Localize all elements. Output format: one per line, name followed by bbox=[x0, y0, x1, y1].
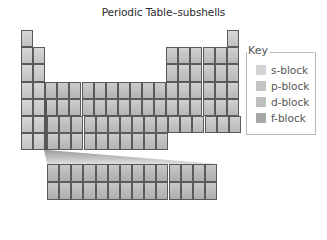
f-block-cell bbox=[193, 164, 205, 182]
f-block-cell bbox=[132, 164, 144, 182]
key-title: Key bbox=[248, 44, 270, 57]
f-block-cell bbox=[47, 164, 59, 182]
f-block-cell bbox=[169, 164, 181, 182]
f-block-cell bbox=[83, 182, 95, 200]
f-block-cell bbox=[205, 164, 217, 182]
f-block-cell bbox=[156, 182, 168, 200]
f-block-cell bbox=[96, 182, 108, 200]
f-block-cell bbox=[108, 164, 120, 182]
f-block-cell bbox=[71, 164, 83, 182]
key-label: p-block bbox=[271, 80, 309, 92]
f-block-cell bbox=[96, 164, 108, 182]
f-block-cell bbox=[144, 164, 156, 182]
p-block-swatch bbox=[256, 81, 266, 91]
key-label: f-block bbox=[271, 112, 306, 124]
f-block-cell bbox=[59, 182, 71, 200]
f-block-cell bbox=[83, 164, 95, 182]
f-block-cell bbox=[59, 164, 71, 182]
s-block-swatch bbox=[256, 65, 266, 75]
f-block-cell bbox=[108, 182, 120, 200]
f-block-cell bbox=[205, 182, 217, 200]
key-top-border bbox=[266, 52, 314, 53]
f-block-cell bbox=[144, 182, 156, 200]
key-label: s-block bbox=[271, 64, 308, 76]
f-block-cell bbox=[120, 164, 132, 182]
f-block-cell bbox=[169, 182, 181, 200]
f-block-cell bbox=[181, 164, 193, 182]
f-block-cell bbox=[193, 182, 205, 200]
f-block-swatch bbox=[256, 113, 266, 123]
key-item-f-block: f-block bbox=[256, 112, 306, 124]
f-block-cell bbox=[47, 182, 59, 200]
key-item-p-block: p-block bbox=[256, 80, 309, 92]
key-item-d-block: d-block bbox=[256, 96, 309, 108]
d-block-swatch bbox=[256, 97, 266, 107]
f-block-cell bbox=[156, 164, 168, 182]
f-block-cell bbox=[181, 182, 193, 200]
key-label: d-block bbox=[271, 96, 309, 108]
f-block-cell bbox=[71, 182, 83, 200]
key-item-s-block: s-block bbox=[256, 64, 308, 76]
f-block-cell bbox=[132, 182, 144, 200]
f-block-cell bbox=[120, 182, 132, 200]
